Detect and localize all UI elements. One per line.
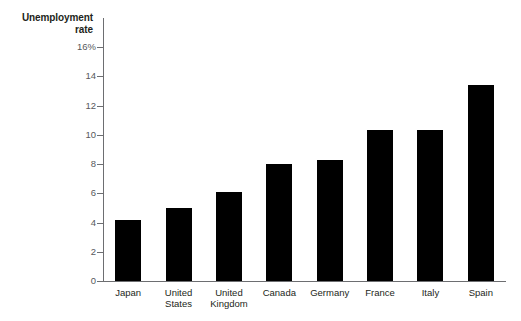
- bar: [115, 220, 141, 281]
- x-axis-category-label: UnitedStates: [153, 287, 203, 309]
- y-axis-tick-label: 10: [26, 130, 96, 140]
- bar-slot: [266, 18, 292, 281]
- x-axis-category-label: Canada: [254, 287, 304, 298]
- x-axis-category-label: Japan: [103, 287, 153, 298]
- y-axis-tick: [97, 193, 103, 194]
- y-axis-tick: [97, 47, 103, 48]
- y-axis-title-line-2: rate: [0, 24, 93, 36]
- bar-slot: [166, 18, 192, 281]
- x-axis-category-label-line: States: [153, 298, 203, 309]
- y-axis-tick-label: 2: [26, 247, 96, 257]
- bar-slot: [317, 18, 343, 281]
- y-axis-tick-label: 8: [26, 159, 96, 169]
- x-axis-category-label-line: Japan: [103, 287, 153, 298]
- x-axis-category-label-line: Germany: [305, 287, 355, 298]
- bar-slot: [417, 18, 443, 281]
- bar: [166, 208, 192, 281]
- bar: [367, 130, 393, 281]
- y-axis-tick: [97, 281, 103, 282]
- bar-slot: [216, 18, 242, 281]
- x-axis-category-label: France: [355, 287, 405, 298]
- unemployment-rate-bar-chart: Unemployment rate 16%14121086420 JapanUn…: [0, 0, 521, 321]
- x-axis-category-label-line: France: [355, 287, 405, 298]
- y-axis-tick: [97, 135, 103, 136]
- x-axis-category-label-line: Canada: [254, 287, 304, 298]
- y-axis-tick: [97, 76, 103, 77]
- x-axis-baseline: [103, 281, 506, 282]
- y-axis-tick-label: 14: [26, 71, 96, 81]
- x-axis-category-label-line: Italy: [405, 287, 455, 298]
- y-axis-tick: [97, 106, 103, 107]
- bar-slot: [115, 18, 141, 281]
- y-axis-tick-label: 4: [26, 218, 96, 228]
- y-axis-tick: [97, 223, 103, 224]
- x-axis-category-label-line: United: [204, 287, 254, 298]
- y-axis-tick-label: 0: [26, 276, 96, 286]
- y-axis-tick-label: 6: [26, 188, 96, 198]
- bar-slot: [468, 18, 494, 281]
- y-axis-tick-label: 12: [26, 101, 96, 111]
- bar: [266, 164, 292, 281]
- y-axis-tick: [97, 252, 103, 253]
- bar: [468, 85, 494, 281]
- x-axis-category-label-line: Spain: [456, 287, 506, 298]
- x-axis-category-label: Italy: [405, 287, 455, 298]
- bar: [417, 130, 443, 281]
- x-axis-category-label-line: United: [153, 287, 203, 298]
- x-axis-category-label: Germany: [305, 287, 355, 298]
- bar-slot: [367, 18, 393, 281]
- x-axis-category-label: Spain: [456, 287, 506, 298]
- x-axis-category-label: UnitedKingdom: [204, 287, 254, 309]
- bars-container: [104, 18, 506, 281]
- y-axis-tick-label: 16%: [26, 42, 96, 52]
- y-axis-title: Unemployment rate: [0, 12, 93, 35]
- y-axis-title-line-1: Unemployment: [0, 12, 93, 24]
- y-axis-tick: [97, 164, 103, 165]
- bar: [216, 192, 242, 281]
- x-axis-category-label-line: Kingdom: [204, 298, 254, 309]
- bar: [317, 160, 343, 281]
